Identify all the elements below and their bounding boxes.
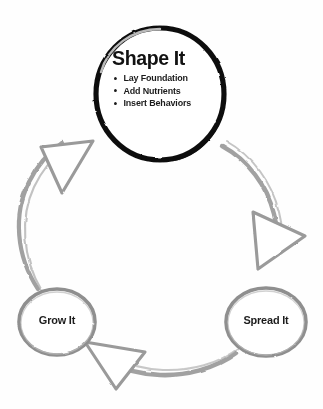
arrow-to-spread-it-icon (253, 212, 305, 269)
diagram-graphics-layer (0, 0, 323, 409)
arrow-to-grow-it-icon (85, 342, 145, 389)
node-spread-it-shape[interactable] (226, 288, 306, 356)
node-shape-it-shape[interactable] (96, 28, 224, 160)
node-grow-it-shape[interactable] (19, 289, 95, 355)
cycle-diagram: Shape It Lay Foundation Add Nutrients In… (0, 0, 323, 409)
arrow-to-shape-it-icon (41, 141, 93, 193)
